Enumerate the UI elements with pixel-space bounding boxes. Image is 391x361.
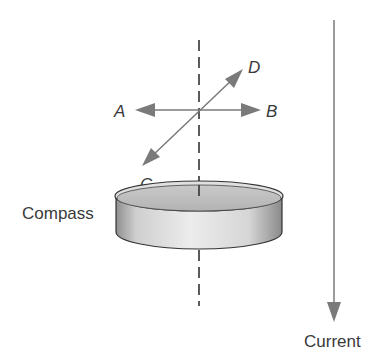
label-current: Current <box>304 332 361 351</box>
arrowhead-d-icon <box>225 69 243 88</box>
current-arrow <box>327 20 341 322</box>
arrow-c-d <box>142 69 243 166</box>
label-b: B <box>266 102 277 121</box>
label-a: A <box>113 102 125 121</box>
arrowhead-current-icon <box>327 302 341 322</box>
label-d: D <box>248 58 260 77</box>
label-compass: Compass <box>22 204 94 223</box>
arrowhead-b-icon <box>241 103 261 117</box>
arrow-a-b <box>135 103 261 117</box>
compass-disk <box>115 181 283 249</box>
compass-current-diagram: A B C D Compass Current <box>0 0 391 361</box>
arrowhead-a-icon <box>135 103 155 117</box>
